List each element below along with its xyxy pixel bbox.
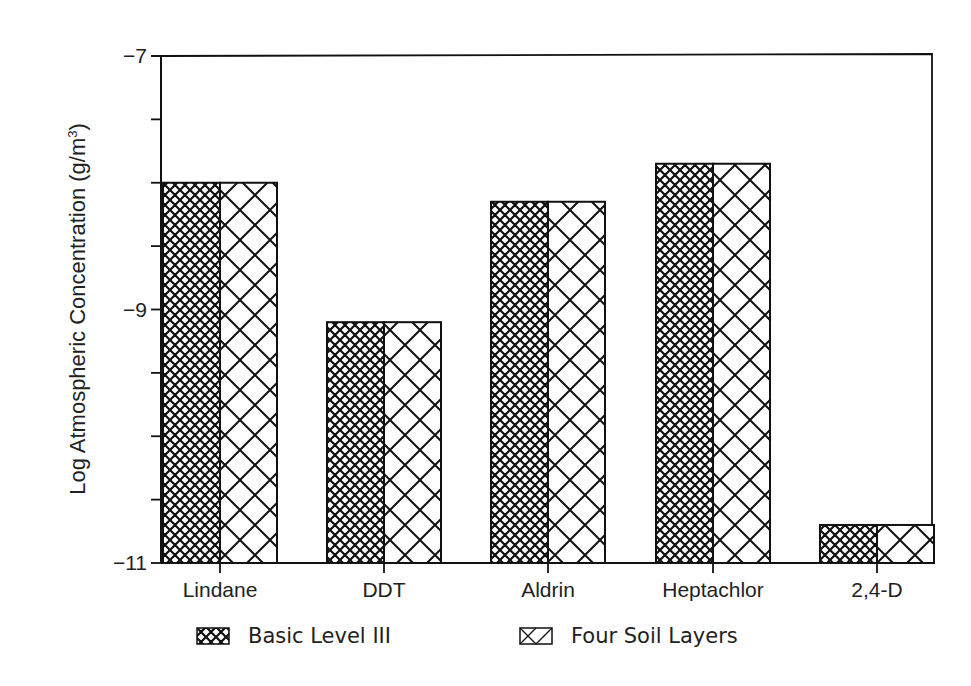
legend: Basic Level III Four Soil Layers — [196, 624, 866, 648]
y-axis-label-text: Log Atmospheric Concentration (g/m — [65, 138, 90, 495]
x-tick-label: Aldrin — [521, 578, 575, 601]
legend-item-four-soil-layers: Four Soil Layers — [519, 624, 738, 648]
bar-four-soil-layers — [713, 164, 770, 563]
legend-label: Basic Level III — [248, 624, 391, 648]
legend-label: Four Soil Layers — [571, 624, 738, 648]
bar-basic-level-iii — [820, 525, 877, 563]
bar-basic-level-iii — [163, 183, 220, 563]
y-axis-label: Log Atmospheric Concentration (g/m3) — [65, 123, 91, 495]
x-tick-label: Lindane — [183, 578, 258, 601]
fine-crosshatch-swatch-icon — [196, 627, 230, 645]
y-axis-label-sup: 3 — [65, 131, 80, 138]
x-tick-label: Heptachlor — [662, 578, 764, 601]
plot-area: −7−9−11LindaneDDTAldrinHeptachlor2,4-D — [113, 44, 934, 601]
bar-chart: −7−9−11LindaneDDTAldrinHeptachlor2,4-D — [0, 0, 971, 686]
x-tick-label: 2,4-D — [851, 578, 902, 601]
y-axis-label-tail: ) — [65, 123, 90, 130]
bar-basic-level-iii — [656, 164, 713, 563]
bar-four-soil-layers — [220, 183, 277, 563]
bar-four-soil-layers — [877, 525, 934, 563]
y-tick-label: −9 — [123, 298, 147, 321]
legend-item-basic-level-iii: Basic Level III — [196, 624, 391, 648]
x-tick-label: DDT — [362, 578, 405, 601]
y-tick-label: −7 — [123, 44, 147, 67]
coarse-crosshatch-swatch-icon — [519, 627, 553, 645]
bar-basic-level-iii — [491, 202, 548, 563]
bar-basic-level-iii — [327, 322, 384, 563]
bar-four-soil-layers — [384, 322, 441, 563]
y-tick-label: −11 — [113, 551, 147, 574]
bar-four-soil-layers — [548, 202, 605, 563]
